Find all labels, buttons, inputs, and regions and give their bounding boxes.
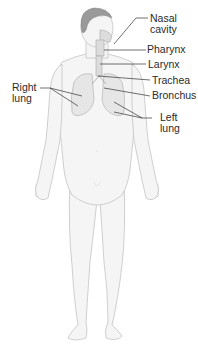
label-left-lung: Left lung	[160, 112, 180, 134]
label-right-lung-line2: lung	[12, 93, 37, 104]
label-larynx: Larynx	[148, 59, 180, 70]
label-nasal-cavity-line2: cavity	[150, 24, 177, 35]
label-trachea: Trachea	[152, 75, 190, 86]
label-pharynx: Pharynx	[147, 44, 186, 55]
label-bronchus: Bronchus	[152, 90, 196, 101]
label-nasal-cavity: Nasal cavity	[150, 13, 177, 35]
label-left-lung-line2: lung	[160, 123, 180, 134]
label-right-lung: Right lung	[12, 82, 37, 104]
